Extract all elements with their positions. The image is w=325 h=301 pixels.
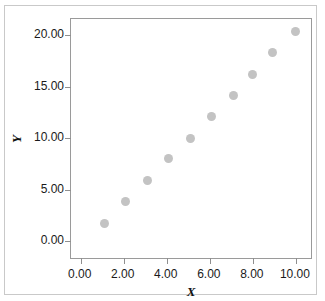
plot-frame: [70, 18, 312, 259]
data-point-marker: [229, 91, 238, 100]
x-axis-tick: [210, 258, 211, 264]
data-point-marker: [207, 112, 216, 121]
data-point-marker: [291, 27, 300, 36]
data-point-marker: [164, 154, 173, 163]
x-axis-tick: [124, 258, 125, 264]
data-point-marker: [121, 197, 130, 206]
figure-container: 0.005.0010.0015.0020.00 0.002.004.006.00…: [4, 5, 317, 295]
y-axis-tick-label: 0.00: [16, 233, 64, 247]
y-axis-tick-label: 5.00: [16, 182, 64, 196]
y-axis-tick-label: 20.00: [16, 27, 64, 41]
cropped-text-remnant: [0, 0, 325, 4]
y-axis-tick: [65, 190, 71, 191]
data-point-marker: [248, 70, 257, 79]
y-axis-tick: [65, 138, 71, 139]
data-point-marker: [186, 134, 195, 143]
data-point-marker: [100, 219, 109, 228]
plot-canvas: [71, 19, 311, 258]
x-axis-tick: [253, 258, 254, 264]
data-point-marker: [268, 48, 277, 57]
y-axis-tick-label: 15.00: [16, 79, 64, 93]
x-axis-tick: [81, 258, 82, 264]
x-axis-tick-label: 10.00: [267, 267, 323, 281]
x-axis-tick: [296, 258, 297, 264]
y-axis-tick: [65, 241, 71, 242]
x-axis-tick-labels: 0.002.004.006.008.0010.00: [70, 267, 312, 283]
x-axis-tick: [167, 258, 168, 264]
y-axis-tick: [65, 35, 71, 36]
x-axis-title: X: [70, 284, 312, 300]
y-axis-tick: [65, 87, 71, 88]
data-point-marker: [143, 176, 152, 185]
y-axis-title: Y: [9, 135, 25, 143]
